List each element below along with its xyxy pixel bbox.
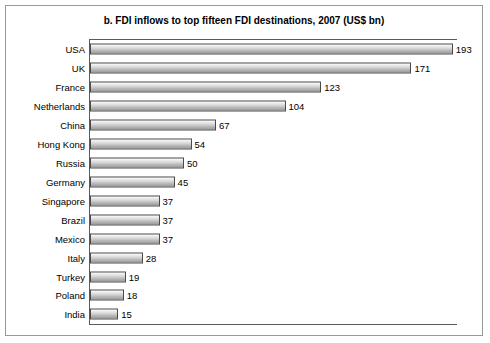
bar [90,157,184,168]
bar [90,176,175,187]
bar-value-label: 104 [289,101,305,112]
bar-value-label: 123 [324,82,340,93]
bar-value-label: 37 [163,214,174,225]
bar [90,290,124,301]
category-label: Poland [55,290,85,301]
bar-value-label: 54 [195,139,206,150]
bar-value-label: 37 [163,233,174,244]
chart-row: Poland18 [90,286,457,305]
chart-row: Netherlands104 [90,97,457,116]
category-label: China [60,120,85,131]
bar [90,233,160,244]
category-label: France [55,82,85,93]
bar-value-label: 50 [187,157,198,168]
bar [90,101,286,112]
bar-value-label: 37 [163,195,174,206]
bar [90,195,160,206]
plot-area: USA193UK171France123Netherlands104China6… [89,39,457,325]
chart-row: India15 [90,305,457,324]
category-label: Mexico [55,233,85,244]
chart-row: China67 [90,116,457,135]
chart-row: Germany45 [90,172,457,191]
bar [90,44,453,55]
chart-title: b. FDI inflows to top fifteen FDI destin… [6,15,482,26]
chart-row: Singapore37 [90,191,457,210]
bar-value-label: 19 [129,271,140,282]
chart-row: Hong Kong54 [90,135,457,154]
category-label: Germany [46,176,85,187]
category-label: Turkey [56,271,85,282]
bar [90,214,160,225]
bar-value-label: 193 [456,44,472,55]
bar-value-label: 171 [414,63,430,74]
bar [90,139,192,150]
chart-row: France123 [90,78,457,97]
chart-row: Italy28 [90,248,457,267]
category-label: Italy [68,252,85,263]
bar-value-label: 15 [121,309,132,320]
chart-row: USA193 [90,40,457,59]
bar [90,120,216,131]
category-label: Netherlands [34,101,85,112]
bar [90,63,411,74]
bar-value-label: 45 [178,176,189,187]
bar-value-label: 67 [219,120,230,131]
chart-row: UK171 [90,59,457,78]
bar [90,82,321,93]
category-label: Hong Kong [37,139,85,150]
chart-row: Mexico37 [90,229,457,248]
category-label: Brazil [61,214,85,225]
category-label: Russia [56,157,85,168]
bar [90,309,118,320]
bar [90,271,126,282]
bar-value-label: 18 [127,290,138,301]
chart-row: Russia50 [90,154,457,173]
chart-container: b. FDI inflows to top fifteen FDI destin… [5,5,483,336]
chart-row: Brazil37 [90,210,457,229]
category-label: UK [72,63,85,74]
bar [90,252,143,263]
category-label: India [64,309,85,320]
category-label: Singapore [42,195,85,206]
category-label: USA [65,44,85,55]
bar-value-label: 28 [146,252,157,263]
chart-row: Turkey19 [90,267,457,286]
